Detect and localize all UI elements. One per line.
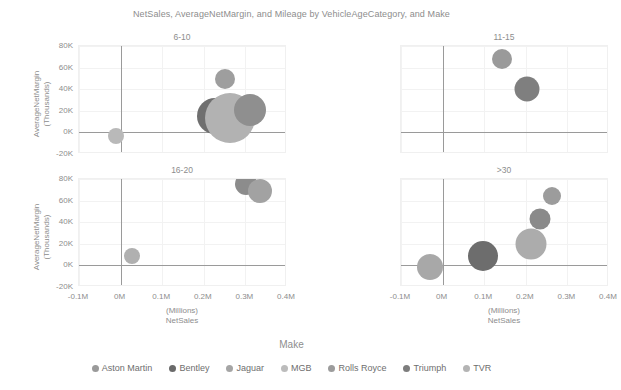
panel-title: 6-10 [78, 32, 286, 42]
bubble-triumph[interactable] [234, 94, 266, 126]
x-axis-tick-label: 0M [425, 292, 459, 301]
x-axis-tick-label: 0.1M [144, 292, 178, 301]
plot-area [78, 45, 286, 153]
legend-item-label: Bentley [179, 363, 209, 373]
legend-item-triumph[interactable]: Triumph [403, 363, 446, 373]
y-axis-tick-label: 20K [47, 238, 73, 247]
chart-title: NetSales, AverageNetMargin, and Mileage … [0, 9, 583, 19]
gridline-horizontal [401, 46, 607, 47]
y-axis-tick-label: 80K [47, 41, 73, 50]
gridline-horizontal [401, 179, 607, 180]
gridline-vertical [204, 46, 205, 152]
panel-title: >30 [400, 165, 608, 175]
legend-item-mgb[interactable]: MGB [281, 363, 312, 373]
legend-swatch-icon [226, 365, 233, 372]
legend: Aston MartinBentleyJaguarMGBRolls RoyceT… [0, 363, 583, 373]
panel-16-20: 16-20 [78, 178, 286, 286]
y-axis-tick-label: 0K [47, 260, 73, 269]
x-axis-title-left: (Millions) NetSales [102, 306, 262, 326]
y-axis-tick-label: 0K [47, 127, 73, 136]
x-axis-tick-label: 0.1M [466, 292, 500, 301]
legend-swatch-icon [403, 365, 410, 372]
gridline-vertical [162, 179, 163, 285]
plot-area [400, 178, 608, 286]
gridline-vertical [401, 179, 402, 285]
zero-line-vertical [443, 46, 444, 152]
y-axis-tick-label: 60K [47, 62, 73, 71]
legend-swatch-icon [281, 365, 288, 372]
panel-gt30: >30 [400, 178, 608, 286]
legend-swatch-icon [463, 365, 470, 372]
legend-item-label: Triumph [413, 363, 446, 373]
bubble-tvr[interactable] [248, 179, 272, 203]
legend-item-jaguar[interactable]: Jaguar [226, 363, 264, 373]
x-axis-title-line1: (Millions) [166, 306, 198, 315]
legend-item-label: Rolls Royce [338, 363, 386, 373]
gridline-horizontal [401, 244, 607, 245]
gridline-horizontal [79, 68, 285, 69]
gridline-horizontal [401, 201, 607, 202]
bubble-aston-martin[interactable] [543, 187, 561, 205]
gridline-horizontal [79, 222, 285, 223]
legend-swatch-icon [328, 365, 335, 372]
legend-item-label: Aston Martin [102, 363, 153, 373]
x-axis-tick-label: 0.2M [508, 292, 542, 301]
bubble-triumph[interactable] [514, 77, 539, 102]
gridline-horizontal [401, 89, 607, 90]
panel-title: 11-15 [400, 32, 608, 42]
bubble-jaguar[interactable] [515, 229, 546, 260]
legend-item-tvr[interactable]: TVR [463, 363, 491, 373]
x-axis-title-line1: (Millions) [488, 306, 520, 315]
x-axis-tick-label: 0.3M [227, 292, 261, 301]
gridline-vertical [79, 46, 80, 152]
gridline-vertical [567, 46, 568, 152]
legend-title: Make [0, 339, 583, 350]
panel-title: 16-20 [78, 165, 286, 175]
plot-area [400, 45, 608, 153]
gridline-vertical [567, 179, 568, 285]
y-axis-tick-label: 80K [47, 174, 73, 183]
x-axis-title-line2: NetSales [424, 316, 584, 326]
bubble-aston-martin[interactable] [215, 69, 235, 89]
x-axis-tick-label: 0.4M [269, 292, 303, 301]
panel-6-10: 6-10 [78, 45, 286, 153]
x-axis-tick-label: 0.3M [549, 292, 583, 301]
gridline-horizontal [79, 244, 285, 245]
x-axis-tick-label: 0M [103, 292, 137, 301]
legend-item-label: Jaguar [236, 363, 264, 373]
gridline-horizontal [401, 111, 607, 112]
legend-item-bentley[interactable]: Bentley [169, 363, 209, 373]
x-axis-title-right: (Millions) NetSales [424, 306, 584, 326]
bubble-bentley[interactable] [468, 241, 498, 271]
bubble-mgb[interactable] [124, 248, 140, 264]
gridline-vertical [401, 46, 402, 152]
panel-11-15: 11-15 [400, 45, 608, 153]
bubble-mgb[interactable] [108, 128, 124, 144]
gridline-vertical [79, 179, 80, 285]
gridline-horizontal [401, 222, 607, 223]
legend-item-aston-martin[interactable]: Aston Martin [92, 363, 153, 373]
y-axis-tick-label: 40K [47, 217, 73, 226]
y-axis-title-line1: AverageNetMargin [32, 204, 41, 271]
x-axis-tick-label: -0.1M [383, 292, 417, 301]
legend-item-rolls-royce[interactable]: Rolls Royce [328, 363, 386, 373]
legend-swatch-icon [169, 365, 176, 372]
legend-swatch-icon [92, 365, 99, 372]
y-axis-tick-label: 40K [47, 84, 73, 93]
bubble-triumph[interactable] [529, 208, 550, 229]
bubble-rolls-royce[interactable] [492, 49, 512, 69]
y-axis-tick-label: -20K [47, 282, 73, 291]
y-axis-tick-label: 20K [47, 105, 73, 114]
zero-line-vertical [121, 179, 122, 285]
plot-area [78, 178, 286, 286]
y-axis-title-line1: AverageNetMargin [32, 71, 41, 138]
bubble-mgb[interactable] [417, 254, 443, 280]
gridline-vertical [204, 179, 205, 285]
gridline-horizontal [79, 89, 285, 90]
zero-line-horizontal [400, 132, 608, 133]
gridline-horizontal [79, 46, 285, 47]
gridline-vertical [162, 46, 163, 152]
legend-item-label: MGB [291, 363, 312, 373]
zero-line-horizontal [78, 265, 286, 266]
